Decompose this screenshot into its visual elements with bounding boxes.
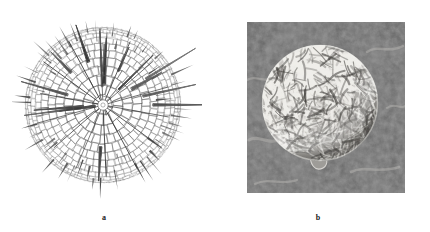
central-hub bbox=[98, 100, 108, 110]
figure-panel-b: b bbox=[215, 0, 430, 232]
figure-root: a bbox=[0, 0, 430, 232]
figure-panel-a: a bbox=[0, 0, 215, 232]
sem-micrograph bbox=[247, 22, 405, 193]
radiolarian-line-drawing bbox=[12, 6, 202, 204]
sem-micrograph-svg bbox=[247, 22, 405, 193]
radiolarian-svg bbox=[12, 6, 202, 204]
panel-a-caption: a bbox=[94, 213, 114, 223]
panel-b-caption: b bbox=[308, 213, 328, 223]
